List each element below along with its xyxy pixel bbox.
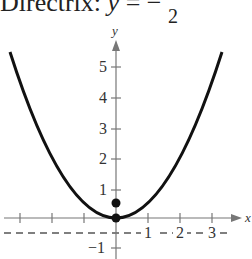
focus-point <box>112 199 121 208</box>
x-axis-arrow-icon <box>231 214 242 222</box>
y-axis-label: y <box>110 23 118 38</box>
x-axis-label: x <box>244 210 251 225</box>
x-tick-label-1: 1 <box>144 224 152 241</box>
x-tick-label-2: 2 <box>176 224 184 241</box>
y-axis-arrow-icon <box>112 40 120 51</box>
y-tick-label-3: 3 <box>99 120 107 137</box>
y-tick-label-1: 1 <box>99 181 107 198</box>
y-tick-label-4: 4 <box>99 89 107 106</box>
y-tick-label-2: 2 <box>99 150 107 167</box>
x-tick-label-3: 3 <box>208 224 216 241</box>
vertex-point <box>112 214 121 223</box>
y-tick-label-5: 5 <box>99 58 107 75</box>
y-tick-label-minus-1: −1 <box>88 239 105 256</box>
parabola-plot: x y 1 2 3 5 4 3 2 1 −1 <box>0 0 252 259</box>
